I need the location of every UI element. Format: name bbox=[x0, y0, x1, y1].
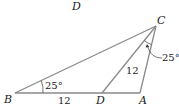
length-dc-label: 12 bbox=[126, 65, 139, 76]
angle-arc-b bbox=[41, 81, 43, 93]
vertex-b-label: B bbox=[3, 93, 12, 106]
triangle-diagram: D 25° 25° 12 12 B D A C bbox=[0, 0, 179, 110]
vertex-d-label: D bbox=[95, 94, 105, 107]
arrowhead-icon bbox=[146, 44, 150, 47]
length-bd-label: 12 bbox=[58, 95, 71, 106]
angle-b-label: 25° bbox=[45, 80, 63, 91]
vertex-c-label: C bbox=[157, 14, 166, 27]
angle-arc-c bbox=[144, 41, 151, 45]
title-label-d: D bbox=[71, 0, 81, 13]
angle-dca-label: 25° bbox=[162, 52, 179, 63]
segment-bc bbox=[15, 26, 156, 93]
vertex-a-label: A bbox=[138, 94, 147, 107]
